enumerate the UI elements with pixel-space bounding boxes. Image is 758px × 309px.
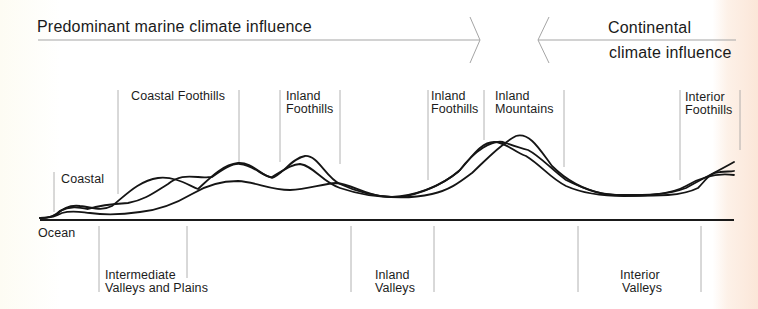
zone-label-inland-foothills-1-line1: Inland — [286, 89, 321, 103]
marine-influence-label: Predominant marine climate influence — [37, 18, 312, 36]
climate-influence-diagram: Predominant marine climate influence Con… — [0, 0, 758, 309]
zone-label-inland-mountains-line1: Inland — [495, 89, 530, 103]
zone-label-ocean: Ocean — [38, 226, 75, 240]
zone-label-inland-foothills-2-line1: Inland — [431, 89, 466, 103]
zone-label-interior-valleys-line1: Interior — [620, 268, 660, 282]
continental-influence-label-line1: Continental — [608, 19, 691, 37]
terrain-profile-a — [40, 142, 734, 218]
zone-label-interior-foothills-line1: Interior — [685, 90, 725, 104]
zone-label-inland-valleys-line1: Inland — [375, 268, 410, 282]
zone-label-intermediate-line2: Valleys and Plains — [105, 281, 208, 295]
zone-label-interior-foothills-line2: Foothills — [685, 103, 732, 117]
terrain-profile-c — [40, 135, 734, 218]
zone-label-coastal: Coastal — [61, 172, 104, 186]
continental-influence-label-line2: climate influence — [609, 44, 732, 62]
zone-dividers-top — [54, 90, 740, 212]
zone-label-interior-valleys-line2: Valleys — [622, 281, 662, 295]
zone-label-inland-mountains-line2: Mountains — [495, 102, 554, 116]
zone-label-inland-foothills-1-line2: Foothills — [286, 102, 333, 116]
zone-label-inland-foothills-2-line2: Foothills — [431, 102, 478, 116]
zone-label-inland-valleys-line2: Valleys — [375, 281, 415, 295]
zone-label-intermediate-line1: Intermediate — [105, 268, 176, 282]
terrain-profile-b — [40, 142, 734, 218]
zone-label-coastal-foothills: Coastal Foothills — [131, 89, 225, 103]
